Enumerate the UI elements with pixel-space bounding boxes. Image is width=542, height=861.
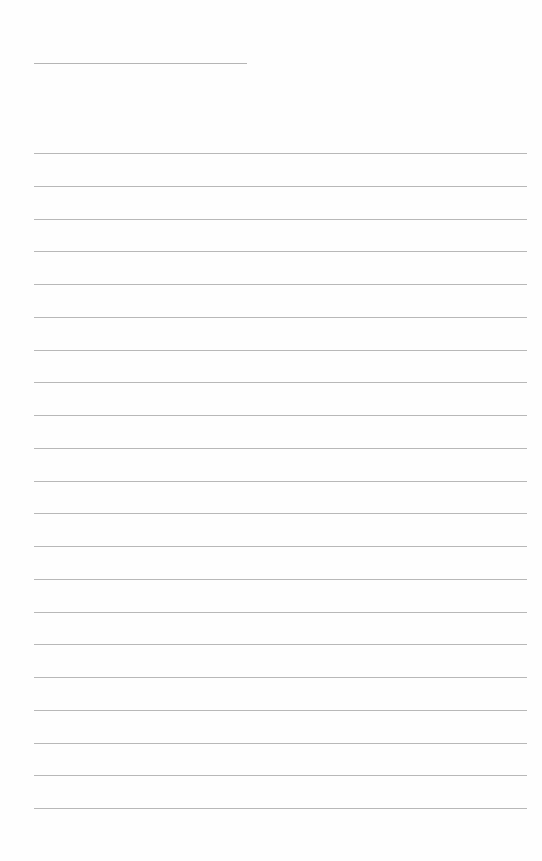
ruled-line bbox=[34, 808, 527, 809]
ruled-line bbox=[34, 415, 527, 416]
lined-paper-page bbox=[0, 0, 542, 861]
ruled-line bbox=[34, 481, 527, 482]
ruled-line bbox=[34, 153, 527, 154]
ruled-line bbox=[34, 775, 527, 776]
ruled-line bbox=[34, 350, 527, 351]
ruled-line bbox=[34, 513, 527, 514]
ruled-line bbox=[34, 546, 527, 547]
ruled-line bbox=[34, 644, 527, 645]
ruled-line bbox=[34, 579, 527, 580]
ruled-line bbox=[34, 284, 527, 285]
ruled-line bbox=[34, 743, 527, 744]
ruled-line bbox=[34, 448, 527, 449]
ruled-line bbox=[34, 612, 527, 613]
ruled-line bbox=[34, 382, 527, 383]
ruled-line bbox=[34, 219, 527, 220]
ruled-line bbox=[34, 251, 527, 252]
ruled-line bbox=[34, 710, 527, 711]
ruled-line bbox=[34, 677, 527, 678]
header-name-line bbox=[34, 63, 247, 64]
ruled-line bbox=[34, 317, 527, 318]
ruled-line bbox=[34, 186, 527, 187]
